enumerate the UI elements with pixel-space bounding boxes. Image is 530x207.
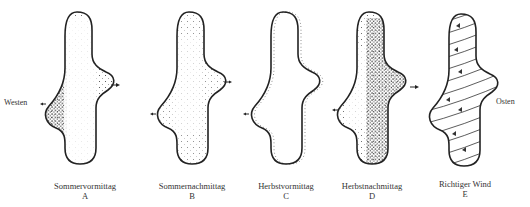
arrow-west-icon <box>243 113 249 116</box>
panel-a-caption: Sommervormittag A <box>40 181 130 201</box>
diagram-canvas <box>0 0 530 207</box>
panel-a-shape <box>39 8 119 168</box>
panel-b-letter: B <box>147 191 237 201</box>
east-label: Osten <box>496 97 515 106</box>
panel-e-letter: E <box>420 189 510 199</box>
panel-a-title: Sommervormittag <box>40 181 130 191</box>
panel-d-shape <box>331 8 411 168</box>
panel-a-letter: A <box>40 191 130 201</box>
panel-d-caption: Herbstnachmittag D <box>327 181 417 201</box>
arrow-west-icon <box>332 109 338 112</box>
panel-e-shape <box>423 0 508 184</box>
arrow-east-icon <box>410 85 419 89</box>
panel-b-title: Sommernachmittag <box>147 181 237 191</box>
panel-b-shape <box>151 8 231 168</box>
panel-c-letter: C <box>241 191 331 201</box>
arrow-west-icon <box>40 103 46 106</box>
arrow-west-icon <box>150 113 156 116</box>
panel-c-title: Herbstvormittag <box>241 181 331 191</box>
panel-e-title: Richtiger Wind <box>420 179 510 189</box>
panel-d-letter: D <box>327 191 417 201</box>
panel-c-caption: Herbstvormittag C <box>241 181 331 201</box>
panel-c-shape <box>251 8 330 168</box>
panel-d-title: Herbstnachmittag <box>327 181 417 191</box>
panel-b-caption: Sommernachmittag B <box>147 181 237 201</box>
west-label: Westen <box>4 98 27 107</box>
panel-e-caption: Richtiger Wind E <box>420 179 510 199</box>
